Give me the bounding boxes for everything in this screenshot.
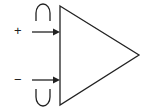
amplifier-triangle (60, 6, 139, 105)
plus-input-arrowhead-icon (53, 29, 60, 36)
top-loop-icon (36, 4, 50, 21)
amplifier-graphic (0, 0, 147, 110)
amplifier-diagram: + − (0, 0, 147, 110)
minus-input-label: − (14, 73, 22, 86)
bottom-loop-icon (36, 89, 50, 106)
minus-input-arrowhead-icon (53, 77, 60, 84)
plus-input-label: + (14, 24, 22, 37)
